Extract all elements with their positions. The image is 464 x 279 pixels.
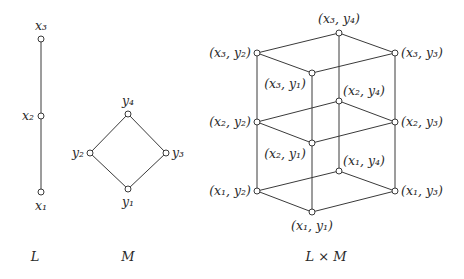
node-label-y1: y₁	[121, 194, 134, 209]
node-label-x3y3: (x₃, y₃)	[401, 45, 443, 60]
node-y2	[87, 150, 93, 156]
caption-L: L	[30, 249, 40, 264]
node-label-x1y4: (x₁, y₄)	[343, 153, 385, 168]
node-label-x1y2: (x₁, y₂)	[209, 183, 251, 198]
diagram-M: y₁y₂y₃y₄M	[71, 93, 184, 264]
node-label-x1: x₁	[35, 198, 47, 213]
edge-x2y1-x2y3	[312, 122, 395, 143]
node-y1	[125, 186, 131, 192]
node-x3y4	[336, 30, 342, 36]
edge-y2-y4	[90, 114, 128, 153]
edge-x1y1-x1y2	[257, 191, 312, 212]
edge-x2y3-x2y4	[339, 101, 395, 122]
lattice-diagrams: x₁x₂x₃L y₁y₂y₃y₄M (x₁, y₁)(x₁, y₂)(x₁, y…	[0, 0, 464, 279]
node-label-x2y2: (x₂, y₂)	[209, 114, 251, 129]
node-x2y4	[336, 98, 342, 104]
node-x2y1	[309, 140, 315, 146]
node-label-x2y4: (x₂, y₄)	[343, 83, 385, 98]
edge-x2y1-x2y2	[257, 122, 312, 143]
node-label-y4: y₄	[121, 93, 134, 108]
node-label-x3y1: (x₃, y₁)	[264, 76, 306, 91]
node-x1y4	[336, 168, 342, 174]
node-x1y1	[309, 209, 315, 215]
node-x3y1	[309, 70, 315, 76]
caption-M: M	[120, 249, 135, 264]
node-label-y3: y₃	[171, 145, 184, 160]
diagram-L-times-M: (x₁, y₁)(x₁, y₂)(x₁, y₃)(x₁, y₄)(x₂, y₁)…	[209, 11, 443, 264]
node-x1	[38, 189, 44, 195]
node-x2	[38, 113, 44, 119]
edge-x2y2-x2y4	[257, 101, 339, 122]
diagram-L: x₁x₂x₃L	[22, 18, 47, 264]
edge-y1-y3	[128, 153, 166, 189]
node-y4	[125, 111, 131, 117]
caption-LxM: L × M	[304, 249, 347, 264]
node-x3y2	[254, 50, 260, 56]
edge-x1y2-x1y4	[257, 171, 339, 191]
node-label-x1y3: (x₁, y₃)	[401, 183, 443, 198]
edge-x3y2-x3y4	[257, 33, 339, 53]
edge-x1y3-x1y4	[339, 171, 395, 191]
node-label-x2: x₂	[22, 108, 34, 123]
node-label-x1y1: (x₁, y₁)	[291, 218, 333, 233]
node-label-y2: y₂	[71, 145, 84, 160]
node-label-x3y2: (x₃, y₂)	[209, 45, 251, 60]
node-label-x2y1: (x₂, y₁)	[264, 146, 306, 161]
node-label-x3: x₃	[35, 18, 47, 33]
edge-x3y3-x3y4	[339, 33, 395, 53]
edge-x3y1-x3y2	[257, 53, 312, 73]
node-x2y3	[392, 119, 398, 125]
node-x3y3	[392, 50, 398, 56]
edge-x1y1-x1y3	[312, 191, 395, 212]
node-label-x2y3: (x₂, y₃)	[401, 114, 443, 129]
edge-y3-y4	[128, 114, 166, 153]
node-x1y3	[392, 188, 398, 194]
node-label-x3y4: (x₃, y₄)	[318, 11, 360, 26]
node-y3	[163, 150, 169, 156]
node-x1y2	[254, 188, 260, 194]
edge-y1-y2	[90, 153, 128, 189]
edge-x3y1-x3y3	[312, 53, 395, 73]
node-x2y2	[254, 119, 260, 125]
node-x3	[38, 36, 44, 42]
